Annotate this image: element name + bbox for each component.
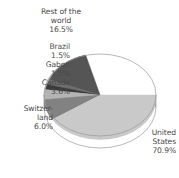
label-line-2: world (31, 16, 91, 25)
slice-label-switzerland: Switzer- land 6.0% (1, 104, 53, 132)
pie-chart-figure: Rest of the world 16.5% Brazil 1.5% Gabo… (0, 0, 179, 178)
label-value: 6.0% (1, 122, 53, 131)
label-line-1: Gabon (10, 60, 70, 69)
label-line-1: United (118, 128, 176, 137)
slice-label-canada: Canada 3.6% (10, 78, 70, 96)
label-line-1: Rest of the (31, 7, 91, 16)
label-line-2: States (118, 137, 176, 146)
label-value: 70.9% (118, 146, 176, 155)
label-line-2: land (1, 113, 53, 122)
label-value: 3.6% (10, 87, 70, 96)
label-value: 16.5% (31, 25, 91, 34)
label-line-1: Brazil (18, 42, 70, 51)
slice-label-brazil: Brazil 1.5% (18, 42, 70, 60)
slice-label-gabon: Gabon 1.5% (10, 60, 70, 78)
label-line-1: Switzer- (1, 104, 53, 113)
slice-label-rest-of-world: Rest of the world 16.5% (31, 7, 91, 35)
label-line-1: Canada (10, 78, 70, 87)
slice-label-united-states: United States 70.9% (118, 128, 176, 156)
